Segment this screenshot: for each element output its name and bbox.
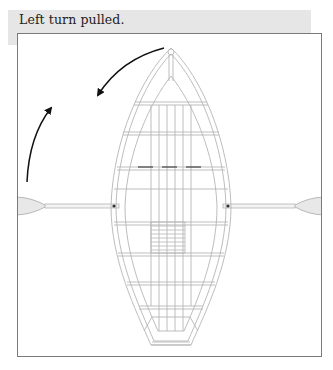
diagram-frame [17,33,322,357]
bow-turn-arrow [98,48,164,95]
boat-hull [111,48,231,345]
center-seat [151,222,185,253]
caption-text: Left turn pulled. [19,12,125,27]
oarlocks [112,204,229,207]
starboard-oar [223,197,321,215]
port-oar-arrow [27,108,51,182]
port-oar [18,197,119,215]
rowboat-diagram [18,34,321,356]
